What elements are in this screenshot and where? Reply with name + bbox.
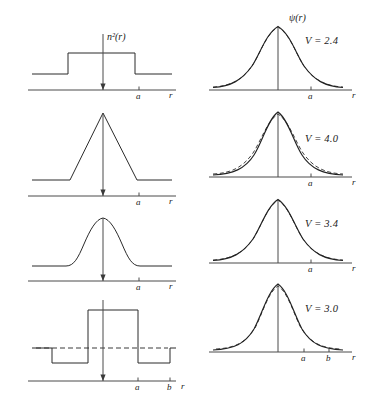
axis-tick-label-b-row-4-right: b [326, 353, 331, 363]
axis-label-r-row-4-left: r [181, 381, 185, 391]
axis-tick-label-a-row-4-right: a [301, 353, 306, 363]
plot-mode-field-row-4 [209, 284, 352, 352]
axis-label-r-row-4-right: r [352, 352, 356, 362]
axis-tick-label-b-row-4-left: b [167, 382, 172, 392]
figure-panel: n²(r) ψ(r) V = 2.4 V = 4.0 V = 3.4 V = 3… [0, 0, 375, 410]
axis-tick-label-a-row-4-left: a [135, 382, 140, 392]
center-arrow-row-4 [100, 375, 105, 382]
w-profile-curve [32, 310, 176, 363]
row-4-graphics [0, 0, 375, 410]
plot-index-profile-w [28, 300, 176, 381]
